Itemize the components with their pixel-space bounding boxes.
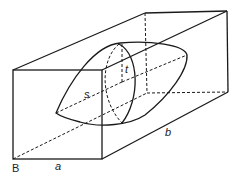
top-right-edge [102, 11, 227, 70]
label-a: a [55, 160, 61, 172]
cross-section-back-arc [105, 44, 122, 123]
box-ellipsoid-diagram: B a b s t [0, 0, 238, 178]
label-t: t [125, 63, 129, 75]
label-corner-B: B [12, 162, 19, 174]
hidden-back-bottom-edge [147, 92, 228, 93]
top-left-edge [13, 13, 145, 70]
hidden-back-vertical-edge [145, 13, 147, 93]
label-b: b [165, 126, 171, 138]
label-s: s [84, 88, 90, 100]
back-top-edge [145, 11, 227, 13]
back-right-edge [227, 11, 228, 92]
hidden-bottom-diagonal-edge [13, 93, 147, 159]
